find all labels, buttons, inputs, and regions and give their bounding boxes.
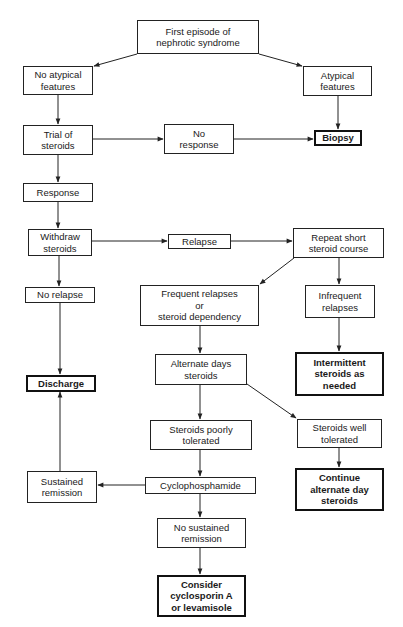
node-intermittent-steroids: Intermittent steroids as needed (295, 352, 384, 396)
edge-alternate-to-well (247, 384, 296, 418)
node-no-sustained-remission: No sustained remission (157, 518, 246, 548)
flowchart-canvas: First episode of nephrotic syndrome No a… (0, 0, 403, 627)
node-atypical-features: Atypical features (303, 66, 372, 96)
node-frequent-relapses: Frequent relapses or steroid dependency (140, 285, 259, 326)
node-first-episode: First episode of nephrotic syndrome (137, 20, 259, 54)
node-no-response: No response (164, 124, 234, 154)
node-cyclophosphamide: Cyclophosphamide (145, 477, 256, 494)
edge-first-to-atypical (259, 54, 302, 66)
node-infrequent-relapses: Infrequent relapses (305, 285, 375, 318)
node-discharge: Discharge (26, 375, 96, 392)
node-withdraw-steroids: Withdraw steroids (28, 229, 92, 256)
node-response: Response (23, 183, 93, 202)
node-relapse: Relapse (168, 234, 231, 249)
node-sustained-remission: Sustained remission (27, 471, 97, 503)
node-steroids-poorly-tolerated: Steroids poorly tolerated (150, 420, 252, 450)
node-biopsy: Biopsy (314, 130, 362, 146)
node-repeat-short-course: Repeat short steroid course (293, 228, 384, 258)
node-consider-cyclosporin: Consider cyclosporin A or levamisole (157, 575, 246, 617)
node-no-relapse: No relapse (25, 287, 95, 303)
node-steroids-well-tolerated: Steroids well tolerated (297, 419, 382, 448)
edge-first-to-no-atypical (94, 54, 137, 66)
node-trial-of-steroids: Trial of steroids (23, 125, 93, 155)
node-alternate-days-steroids: Alternate days steroids (155, 354, 247, 385)
edge-repeat-to-frequent (260, 258, 294, 284)
node-no-atypical-features: No atypical features (23, 66, 93, 95)
node-continue-alternate-day: Continue alternate day steroids (295, 468, 384, 511)
